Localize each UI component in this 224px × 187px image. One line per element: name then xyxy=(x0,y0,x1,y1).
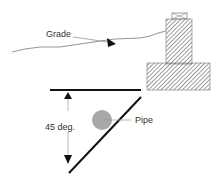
footing-column xyxy=(166,19,192,64)
grade-label: Grade xyxy=(46,30,71,39)
grade-line xyxy=(12,31,166,52)
arrow-down-icon xyxy=(64,155,72,164)
pipe-label: Pipe xyxy=(135,116,153,125)
slope-line xyxy=(69,97,141,173)
diagram-canvas: Grade 45 deg. Pipe xyxy=(0,0,224,187)
angle-label: 45 deg. xyxy=(45,123,75,132)
grade-leader-line xyxy=(73,37,108,42)
footing-base xyxy=(147,63,210,90)
arrow-up-icon xyxy=(64,92,72,99)
diagram-svg xyxy=(0,0,224,187)
footing-cap-icon xyxy=(172,13,187,19)
